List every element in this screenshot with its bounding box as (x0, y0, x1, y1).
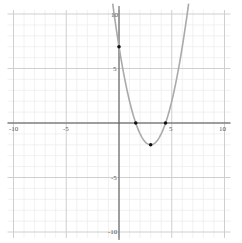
point-vertex (149, 143, 153, 147)
y-tick-label-neg10: -10 (108, 228, 118, 236)
point-root-2 (164, 121, 168, 125)
point-root-1 (134, 121, 138, 125)
function-graph: -10 -5 5 10 10 5 -5 -10 (0, 0, 242, 243)
point-y-intercept (117, 45, 121, 49)
x-tick-label-10: 10 (219, 125, 227, 133)
x-tick-label-5: 5 (169, 125, 173, 133)
key-points (117, 45, 167, 147)
x-tick-label-neg10: -10 (9, 125, 19, 133)
x-tick-label-neg5: -5 (63, 125, 69, 133)
y-tick-label-5: 5 (113, 65, 117, 73)
y-tick-label-10: 10 (111, 11, 119, 19)
y-tick-label-neg5: -5 (111, 174, 117, 182)
